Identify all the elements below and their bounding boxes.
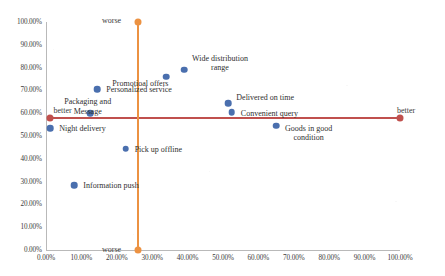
y-axis-tick-label: 90.00% <box>20 41 42 49</box>
x-axis-tick-label: 90.00% <box>354 254 376 262</box>
x-axis-tick-label: 10.00% <box>71 254 93 262</box>
reference-label-better-right: better <box>397 106 415 115</box>
y-axis-tick-label: 50.00% <box>20 132 42 140</box>
x-axis-tick-label: 80.00% <box>318 254 340 262</box>
y-axis-tick-label: 70.00% <box>20 86 42 94</box>
plot-area: 0.00%10.00%20.00%30.00%40.00%50.00%60.00… <box>46 22 400 250</box>
data-point[interactable] <box>273 122 280 129</box>
x-axis-tick-label: 50.00% <box>212 254 234 262</box>
data-point[interactable] <box>229 109 236 116</box>
scatter-chart: 0.00%10.00%20.00%30.00%40.00%50.00%60.00… <box>0 0 445 276</box>
x-axis-tick-label: 30.00% <box>141 254 163 262</box>
data-point[interactable] <box>47 125 54 132</box>
x-axis-tick-label: 60.00% <box>248 254 270 262</box>
reference-line-endpoint-top <box>135 19 142 26</box>
data-point-label: Night delivery <box>59 124 105 134</box>
reference-line-vertical <box>137 22 139 250</box>
reference-label-worse-bottom: worse <box>102 245 121 254</box>
reference-label-worse-top: worse <box>102 16 121 25</box>
x-axis-tick-label: 0.00% <box>37 254 55 262</box>
data-point-label: Wide distribution range <box>192 54 248 73</box>
reference-line-horizontal <box>50 117 400 119</box>
y-axis-tick-label: 10.00% <box>20 223 42 231</box>
data-point-label: Information push <box>83 181 138 191</box>
data-point[interactable] <box>71 182 78 189</box>
data-point-label: Promotioal offers <box>112 79 168 89</box>
y-axis-tick-label: 80.00% <box>20 64 42 72</box>
data-point[interactable] <box>181 67 188 74</box>
x-axis-tick-label: 20.00% <box>106 254 128 262</box>
data-point-label: Pick up offline <box>135 145 182 155</box>
data-point-label: Goods in good condition <box>285 124 332 143</box>
data-point[interactable] <box>122 145 129 152</box>
reference-line-endpoint-end <box>397 114 404 121</box>
y-axis-tick-label: 40.00% <box>20 155 42 163</box>
y-axis-tick-label: 0.00% <box>24 246 42 254</box>
data-point-label: Convenient query <box>241 109 298 119</box>
y-axis-tick-label: 100.00% <box>17 18 42 26</box>
reference-line-endpoint-bottom <box>135 247 142 254</box>
x-axis-tick-label: 100.00% <box>387 254 412 262</box>
data-point-label: Packaging and Message <box>64 97 111 116</box>
y-axis-tick-label: 30.00% <box>20 178 42 186</box>
x-axis-tick-label: 40.00% <box>177 254 199 262</box>
x-axis-line <box>46 250 400 251</box>
x-axis-tick-label: 70.00% <box>283 254 305 262</box>
data-point-label: Delivered on time <box>236 93 294 103</box>
data-point[interactable] <box>94 86 101 93</box>
y-axis-tick-label: 60.00% <box>20 109 42 117</box>
y-axis-line <box>46 22 47 250</box>
y-axis-tick-label: 20.00% <box>20 200 42 208</box>
reference-line-endpoint-start <box>46 114 53 121</box>
data-point[interactable] <box>225 100 232 107</box>
